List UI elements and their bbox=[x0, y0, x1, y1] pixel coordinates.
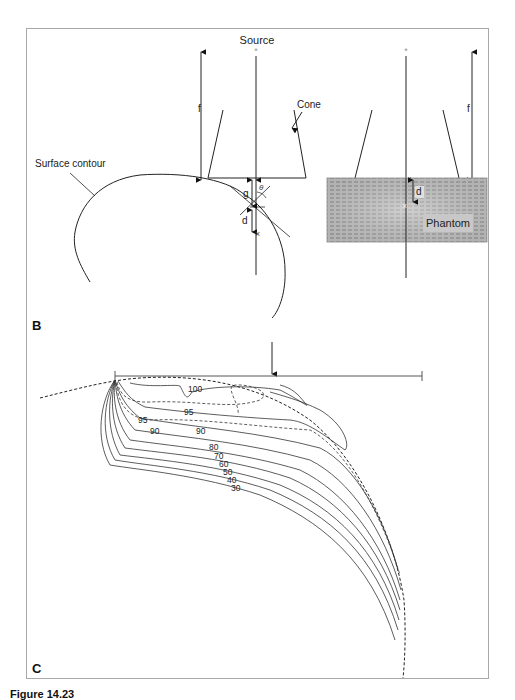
panel-letter-c: C bbox=[32, 661, 42, 676]
isodose-label: 90 bbox=[196, 426, 206, 436]
panel-b: Source * * f Cone Surface contour θ g d … bbox=[32, 34, 487, 333]
surface-contour-pointer bbox=[70, 173, 95, 196]
isodose-label: 95 bbox=[184, 407, 194, 417]
panel-letter-b: B bbox=[32, 318, 41, 333]
surface-contour-curve bbox=[75, 174, 285, 318]
source-point-left-icon: * bbox=[254, 46, 258, 56]
cone-right-left-edge bbox=[355, 110, 372, 178]
surface-contour-label: Surface contour bbox=[35, 158, 106, 169]
cone-right-right-edge bbox=[443, 110, 459, 178]
isodose-label: 100 bbox=[188, 384, 202, 394]
g-label: g bbox=[243, 188, 249, 199]
isodose-labels: 100 95 95 90 90 80 70 60 50 40 30 bbox=[138, 384, 241, 493]
d-label-right: d bbox=[416, 186, 422, 197]
figure-caption: Figure 14.23 bbox=[10, 688, 74, 700]
source-label: Source bbox=[240, 34, 275, 46]
source-point-right-icon: * bbox=[404, 46, 408, 56]
d-label-left: d bbox=[242, 215, 248, 226]
phantom-label: Phantom bbox=[426, 217, 470, 229]
cross-marker-left: × bbox=[255, 229, 260, 239]
isodose-label: 30 bbox=[231, 483, 241, 493]
panel-c: 100 95 95 90 90 80 70 60 50 40 30 C bbox=[32, 342, 422, 678]
surface-dashed-curve bbox=[40, 377, 405, 678]
cone-outline bbox=[208, 110, 306, 178]
cone-label: Cone bbox=[297, 99, 321, 110]
theta-label: θ bbox=[259, 183, 264, 192]
cross-marker-right: × bbox=[402, 201, 407, 211]
f-label-left: f bbox=[198, 103, 201, 114]
f-label-right: f bbox=[467, 103, 470, 114]
isodose-label: 95 bbox=[138, 415, 148, 425]
isodose-label: 90 bbox=[150, 426, 160, 436]
